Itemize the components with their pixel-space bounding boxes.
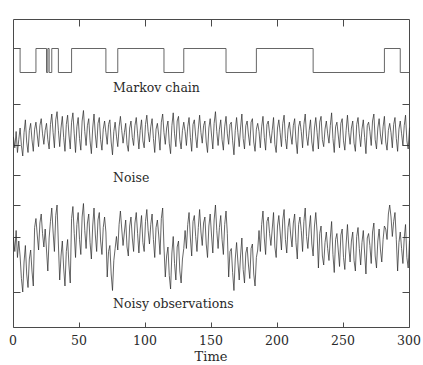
noisy-observations-series	[14, 204, 410, 293]
x-tick-label: 150	[199, 333, 223, 348]
figure-container: Markov chain Noise Noisy observations 0 …	[0, 0, 423, 365]
x-tick-label: 300	[397, 333, 421, 348]
x-tick-label: 200	[265, 333, 289, 348]
noise-label: Noise	[113, 170, 149, 185]
x-axis-title: Time	[195, 349, 228, 364]
noise-series	[14, 111, 410, 157]
markov-chain-label: Markov chain	[113, 80, 200, 95]
x-tick-labels: 0 50 100 150 200 250 300	[9, 333, 421, 348]
top-tick-marks	[80, 20, 344, 27]
x-tick-label: 0	[9, 333, 17, 348]
markov-chain-series	[14, 49, 410, 73]
plot-frame	[14, 20, 410, 328]
x-tick-label: 100	[133, 333, 157, 348]
time-series-figure: Markov chain Noise Noisy observations 0 …	[0, 0, 423, 365]
bottom-tick-marks	[14, 321, 410, 328]
x-tick-label: 250	[331, 333, 355, 348]
x-tick-label: 50	[71, 333, 87, 348]
left-tick-marks	[14, 49, 21, 293]
noisy-observations-label: Noisy observations	[113, 296, 234, 311]
